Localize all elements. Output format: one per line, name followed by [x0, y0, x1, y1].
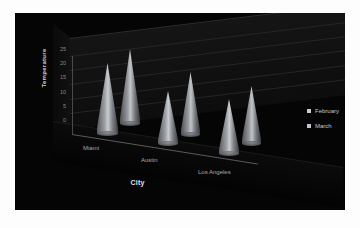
cone-base	[219, 151, 239, 156]
y-tick-label: 20	[60, 60, 66, 66]
cone-body	[120, 49, 140, 124]
cone-body	[97, 63, 118, 134]
chart-legend: February March	[307, 108, 345, 138]
cone-base	[158, 141, 178, 146]
cone-february-miami	[97, 63, 118, 134]
x-category-label-losangeles: Los Angeles	[198, 169, 231, 175]
cone-base	[97, 131, 118, 136]
y-tick-label: 25	[60, 46, 66, 52]
cone-march-miami	[120, 49, 140, 124]
y-tick-label: 15	[60, 74, 66, 80]
cone-february-losangeles	[219, 99, 239, 154]
legend-item-february[interactable]: February	[307, 108, 345, 114]
x-axis-title: City	[15, 179, 260, 186]
y-tick-label: 5	[63, 103, 66, 109]
y-axis-title: Temperature	[41, 37, 47, 99]
x-category-label-austin: Austin	[141, 157, 158, 163]
legend-swatch-icon	[307, 124, 311, 128]
cone-body	[181, 72, 200, 135]
cone-february-austin	[158, 91, 178, 144]
legend-label: March	[315, 123, 332, 129]
y-tick-label: 10	[60, 89, 66, 95]
x-category-label-miami: Miami	[83, 145, 99, 151]
cone-body	[242, 86, 261, 144]
y-axis-line	[72, 56, 73, 134]
cone-base	[242, 141, 261, 146]
chart-plot-area: 25 20 15 10 5 0 Temperature	[15, 13, 345, 210]
cone-body	[158, 91, 178, 144]
legend-item-march[interactable]: March	[307, 123, 345, 129]
cone-march-austin	[181, 72, 200, 135]
cone-march-losangeles	[242, 86, 261, 144]
cone-base	[120, 121, 140, 126]
legend-swatch-icon	[307, 109, 311, 113]
chart-frame: 25 20 15 10 5 0 Temperature	[0, 0, 360, 228]
cone-base	[181, 132, 200, 137]
cone-body	[219, 99, 239, 154]
legend-label: February	[315, 108, 339, 114]
y-tick-label: 0	[63, 117, 66, 123]
